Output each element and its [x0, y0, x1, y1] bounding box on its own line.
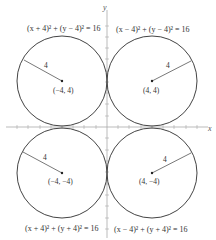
radius-line: [152, 153, 191, 173]
equation-label: (x + 4)² + (y + 4)² = 16: [25, 224, 99, 233]
radius-label: 4: [43, 153, 47, 162]
center-point: [61, 80, 63, 82]
center-point: [151, 172, 153, 174]
center-label: (4, −4): [139, 177, 160, 186]
center-point: [151, 80, 153, 82]
radius-label: 4: [166, 61, 170, 70]
x-axis-label: x: [207, 124, 212, 133]
circle-top-left: 4 (−4, 4) (x + 4)² + (y − 4)² = 16: [17, 24, 107, 126]
circle-top-right: 4 (4, 4) (x − 4)² + (y − 4)² = 16: [107, 25, 197, 126]
radius-line: [24, 60, 62, 81]
radius-label: 4: [44, 61, 48, 70]
center-label: (−4, 4): [53, 86, 74, 95]
y-axis-label: y: [102, 3, 107, 12]
circle-bottom-right: 4 (4, −4) (x − 4)² + (y + 4)² = 16: [107, 128, 197, 234]
equation-label: (x − 4)² + (y + 4)² = 16: [114, 225, 188, 234]
radius-line: [152, 61, 191, 81]
center-label: (4, 4): [143, 86, 160, 95]
center-point: [61, 172, 63, 174]
center-label: (−4, −4): [48, 177, 73, 186]
circles-diagram: y x: [0, 0, 216, 240]
radius-label: 4: [163, 155, 167, 164]
circle-bottom-left: 4 (−4, −4) (x + 4)² + (y + 4)² = 16: [17, 128, 107, 233]
equation-label: (x − 4)² + (y − 4)² = 16: [116, 25, 190, 34]
equation-label: (x + 4)² + (y − 4)² = 16: [27, 24, 101, 33]
